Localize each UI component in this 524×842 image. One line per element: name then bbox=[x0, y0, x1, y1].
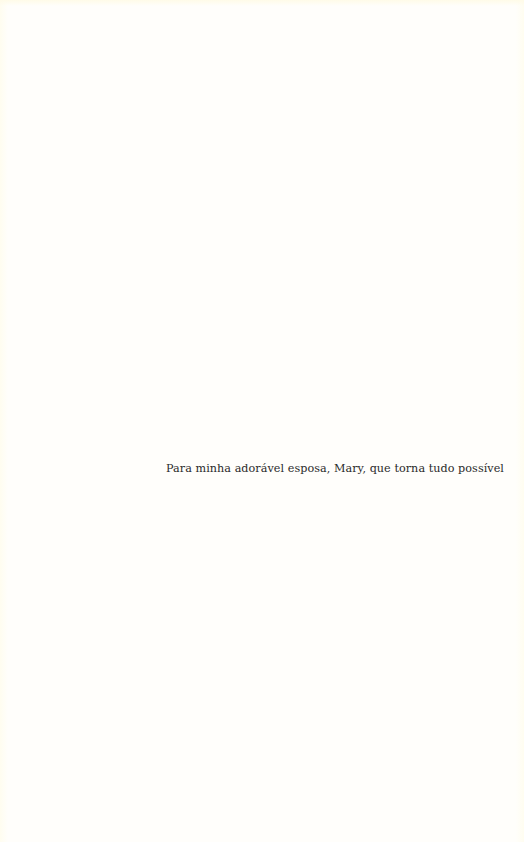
page-edge bbox=[0, 0, 524, 6]
book-page: Para minha adorável esposa, Mary, que to… bbox=[0, 0, 524, 842]
dedication-text: Para minha adorável esposa, Mary, que to… bbox=[166, 460, 482, 478]
